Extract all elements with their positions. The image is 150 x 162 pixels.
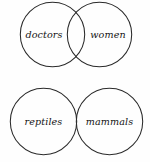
venn-diagram-figure: doctors women reptiles mammals <box>0 0 150 162</box>
set-label-women: women <box>90 29 125 40</box>
set-label-mammals: mammals <box>86 116 133 127</box>
venn-diagram-canvas: doctors women reptiles mammals <box>0 0 150 162</box>
set-label-reptiles: reptiles <box>25 116 63 127</box>
overlapping-pair-panel: doctors women <box>20 2 131 66</box>
disjoint-pair-panel: reptiles mammals <box>10 88 142 154</box>
set-label-doctors: doctors <box>25 29 62 40</box>
